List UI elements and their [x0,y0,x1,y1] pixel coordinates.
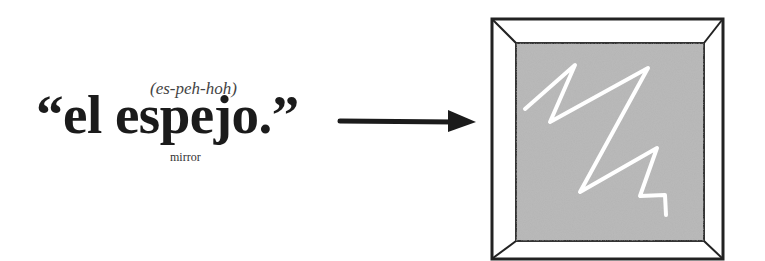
mirror-icon [489,16,729,261]
english-translation: mirror [170,150,201,165]
vocabulary-entry: (es-peh-hoh) “el espejo.” mirror [0,0,340,261]
spanish-word: “el espejo.” [36,87,299,142]
right-arrow-icon [336,108,481,134]
